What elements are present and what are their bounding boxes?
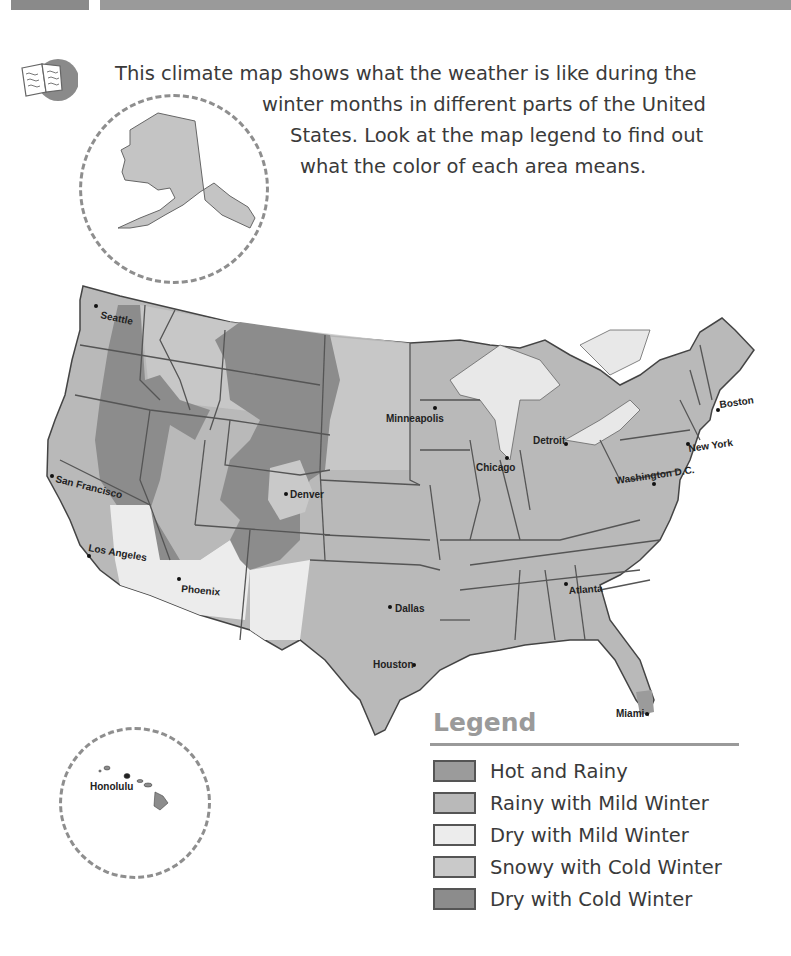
city-miami: Miami — [616, 708, 645, 719]
legend-swatch — [433, 824, 476, 846]
legend-item-dry-cold: Dry with Cold Winter — [433, 886, 692, 912]
city-denver: Denver — [290, 489, 324, 500]
city-boston: Boston — [719, 394, 755, 410]
city-detroit: Detroit — [533, 435, 566, 446]
legend-divider — [430, 743, 739, 746]
legend-label: Hot and Rainy — [490, 760, 628, 783]
legend-swatch — [433, 760, 476, 782]
legend-swatch — [433, 792, 476, 814]
legend-label: Dry with Mild Winter — [490, 824, 689, 847]
legend-item-rainy-mild: Rainy with Mild Winter — [433, 790, 709, 816]
legend-swatch — [433, 856, 476, 878]
city-dallas: Dallas — [395, 603, 425, 614]
legend-label: Rainy with Mild Winter — [490, 792, 709, 815]
city-houston: Houston — [373, 659, 414, 670]
legend-item-hot-rainy: Hot and Rainy — [433, 758, 628, 784]
city-honolulu: Honolulu — [90, 781, 133, 792]
legend-item-snowy-cold: Snowy with Cold Winter — [433, 854, 722, 880]
city-chicago: Chicago — [476, 462, 515, 473]
legend-item-dry-mild: Dry with Mild Winter — [433, 822, 689, 848]
legend-title: Legend — [433, 708, 536, 737]
legend-swatch — [433, 888, 476, 910]
legend-label: Snowy with Cold Winter — [490, 856, 722, 879]
city-minneapolis: Minneapolis — [386, 413, 444, 424]
legend-label: Dry with Cold Winter — [490, 888, 692, 911]
